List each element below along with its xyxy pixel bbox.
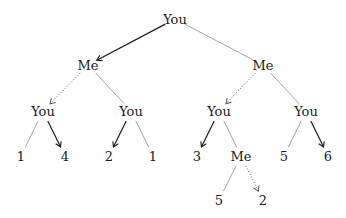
leaf-payoff: 5 <box>215 194 223 207</box>
tree-edge-plain <box>185 24 254 60</box>
node-you-right-left: You <box>207 105 231 118</box>
leaf-payoff: 1 <box>17 150 25 163</box>
tree-edge-plain <box>224 121 237 147</box>
node-root-you: You <box>163 13 187 26</box>
tree-edge-plain <box>25 121 38 147</box>
tree-edge-plain <box>288 121 301 147</box>
leaf-payoff: 1 <box>149 150 157 163</box>
tree-edge-arrow <box>311 121 324 147</box>
node-you-left-right: You <box>119 105 143 118</box>
tree-edge-dotted-arrow <box>246 166 259 191</box>
leaf-payoff: 2 <box>259 194 267 207</box>
leaf-payoff: 2 <box>105 150 113 163</box>
node-you-left-left: You <box>31 105 55 118</box>
tree-edge-dotted-arrow <box>226 73 256 104</box>
tree-edge-arrow <box>48 121 61 147</box>
tree-edge-plain <box>136 121 149 147</box>
node-me-right: Me <box>252 59 273 72</box>
node-me-inner: Me <box>230 150 251 163</box>
tree-edge-arrow <box>201 121 214 147</box>
node-you-right-right: You <box>294 105 318 118</box>
leaf-payoff: 6 <box>324 150 332 163</box>
node-me-left: Me <box>77 59 98 72</box>
tree-edge-dotted-arrow <box>50 73 80 104</box>
tree-edge-plain <box>224 166 237 191</box>
leaf-payoff: 5 <box>280 150 288 163</box>
tree-edge-plain <box>96 73 125 104</box>
leaf-payoff: 4 <box>61 150 69 163</box>
leaf-payoff: 3 <box>193 150 201 163</box>
tree-edge-arrow <box>113 121 126 147</box>
tree-edge-arrow <box>97 24 166 60</box>
tree-edge-plain <box>271 73 300 104</box>
